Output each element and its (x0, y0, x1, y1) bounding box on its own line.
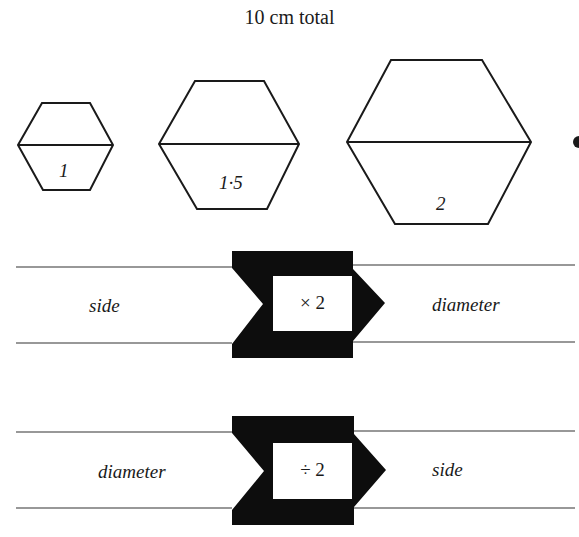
machine-2-output-label: side (432, 459, 463, 481)
partial-shape-edge (573, 136, 579, 148)
diagram-canvas (0, 0, 579, 537)
machine-1-output-label: diameter (432, 294, 500, 316)
hexagon-medium-label: 1·5 (219, 172, 243, 194)
machine-2-operation: ÷ 2 (273, 459, 352, 481)
hexagon-large-label: 2 (436, 193, 446, 215)
machine-2-input-label: diameter (98, 461, 166, 483)
machine-1-operation: × 2 (273, 292, 352, 314)
machine-1-input-label: side (89, 295, 120, 317)
hexagon-small-label: 1 (59, 160, 69, 182)
hexagon-group (18, 60, 531, 224)
